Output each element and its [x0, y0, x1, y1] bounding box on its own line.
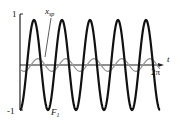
x-sp-leader-line: [45, 18, 51, 57]
y-tick-label-top: 1: [12, 9, 17, 19]
x-tick-label-2pi: 2π: [151, 67, 161, 77]
y-tick-label-bottom: -1: [7, 106, 15, 116]
chart: 1 -1 t 2π xsp F1: [0, 0, 180, 127]
x-sp-label-sub: sp: [49, 11, 54, 17]
f1-label: F1: [50, 107, 60, 118]
x-axis-label: t: [167, 54, 170, 64]
x-sp-label: xsp: [44, 6, 54, 17]
f1-label-sub: 1: [57, 112, 60, 118]
